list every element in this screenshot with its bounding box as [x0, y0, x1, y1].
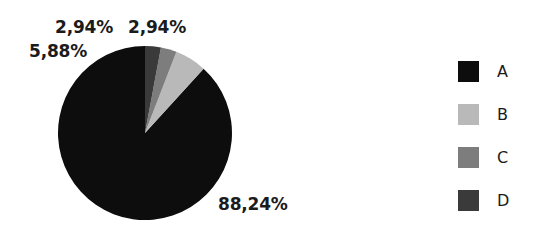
- slice-value-label-d: 2,94%: [128, 19, 186, 36]
- legend: A B C D: [458, 50, 538, 222]
- slice-value-label-b: 5,88%: [29, 43, 87, 60]
- slice-value-label-a: 88,24%: [218, 196, 288, 213]
- pie-plot-area: 88,24% 5,88% 2,94% 2,94%: [0, 0, 320, 243]
- legend-swatch-d: [458, 190, 479, 211]
- legend-item-a: A: [458, 50, 538, 93]
- legend-label-d: D: [497, 193, 509, 209]
- slice-value-label-c: 2,94%: [55, 19, 113, 36]
- legend-swatch-a: [458, 61, 479, 82]
- legend-item-c: C: [458, 136, 538, 179]
- legend-item-d: D: [458, 179, 538, 222]
- legend-label-c: C: [497, 150, 508, 166]
- legend-item-b: B: [458, 93, 538, 136]
- pie-chart: 88,24% 5,88% 2,94% 2,94% A B C D: [0, 0, 543, 243]
- legend-label-b: B: [497, 107, 508, 123]
- legend-label-a: A: [497, 64, 508, 80]
- pie-slice-a: [58, 46, 232, 220]
- legend-swatch-c: [458, 147, 479, 168]
- legend-swatch-b: [458, 104, 479, 125]
